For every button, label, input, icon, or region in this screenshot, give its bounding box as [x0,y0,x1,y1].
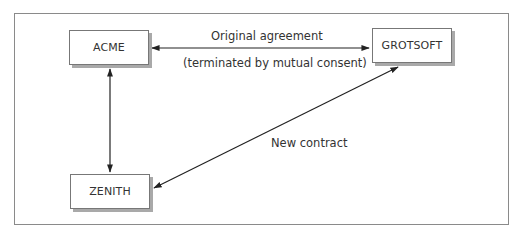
node-zenith: ZENITH [70,174,150,209]
edge-label-new-contract: New contract [271,136,348,150]
node-zenith-label: ZENITH [89,185,131,198]
node-grotsoft: GROTSOFT [372,28,452,63]
node-grotsoft-label: GROTSOFT [382,39,443,52]
edge-label-original-agreement: Original agreement [211,29,323,43]
edge-sublabel-terminated: (terminated by mutual consent) [183,56,367,70]
node-acme: ACME [69,30,149,65]
node-acme-label: ACME [93,41,125,54]
edge-zenith-grotsoft [154,67,398,188]
